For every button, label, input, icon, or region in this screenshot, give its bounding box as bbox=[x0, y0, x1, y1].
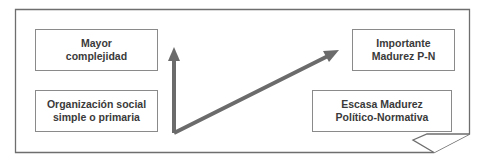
box-label: Escasa Madurez Político-Normativa bbox=[336, 98, 429, 124]
box-label: Importante Madurez P-N bbox=[372, 37, 436, 63]
page-frame bbox=[0, 0, 482, 167]
box-label: Organización social simple o primaria bbox=[47, 98, 146, 124]
box-escasa-madurez: Escasa Madurez Político-Normativa bbox=[312, 90, 452, 132]
box-organizacion-social: Organización social simple o primaria bbox=[35, 90, 158, 132]
box-label: Mayor complejidad bbox=[66, 37, 127, 63]
box-mayor-complejidad: Mayor complejidad bbox=[35, 29, 158, 71]
box-importante-madurez: Importante Madurez P-N bbox=[352, 29, 455, 71]
